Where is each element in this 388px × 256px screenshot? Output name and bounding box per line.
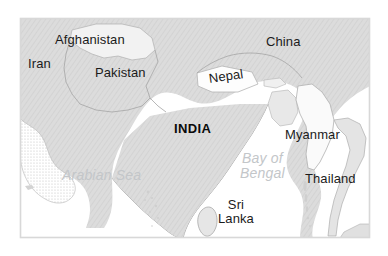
label-myanmar: Myanmar (285, 128, 340, 142)
label-thailand: Thailand (305, 172, 356, 186)
label-pakistan: Pakistan (95, 66, 146, 80)
map-container[interactable]: Iran Afghanistan Pakistan China Nepal IN… (0, 0, 388, 256)
country-sri-lanka (198, 207, 217, 236)
label-bay-of-bengal: Bay of Bengal (240, 151, 285, 181)
label-india: INDIA (174, 122, 211, 136)
label-iran: Iran (28, 57, 51, 71)
label-china: China (266, 35, 300, 49)
label-sri-lanka: Sri Lanka (218, 198, 254, 226)
label-arabian-sea: Arabian Sea (62, 168, 141, 183)
label-afghanistan: Afghanistan (55, 33, 125, 47)
